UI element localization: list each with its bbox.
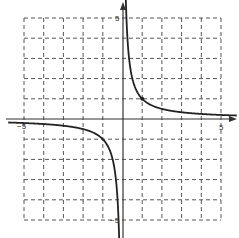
x-axis-arrow-icon <box>229 116 237 122</box>
y-max-label: 5 <box>115 14 120 23</box>
x-min-label: −5 <box>17 122 27 131</box>
x-max-label: 5 <box>219 123 224 132</box>
marked-points <box>140 97 144 101</box>
y-min-label: −5 <box>110 216 120 225</box>
marked-point <box>140 97 144 101</box>
hyperbola-plot: −5 5 5 −5 <box>0 0 239 238</box>
axes <box>6 2 237 238</box>
